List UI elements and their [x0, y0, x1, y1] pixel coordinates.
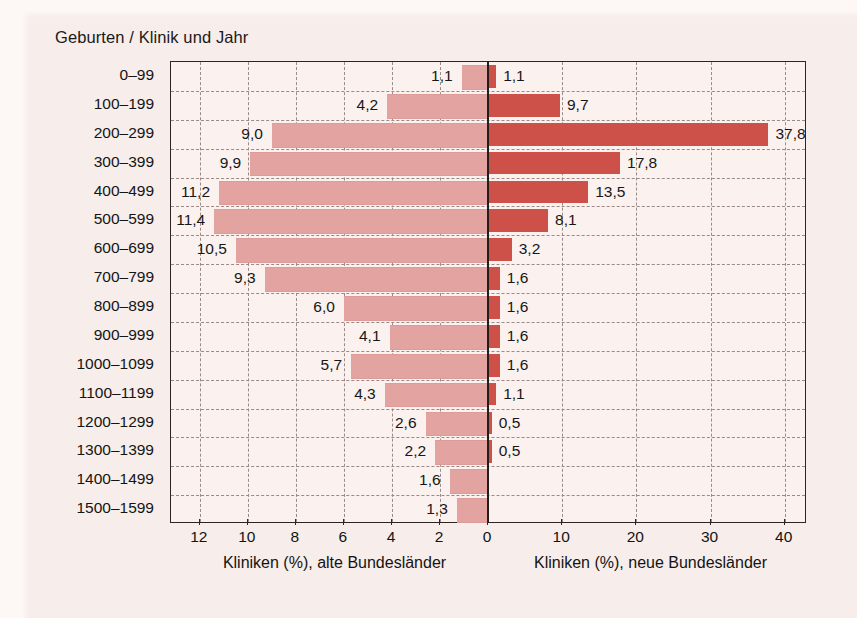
axis-tick-label: 6 — [339, 528, 348, 546]
bar-value-label-right: 8,1 — [555, 209, 577, 232]
bar-right — [488, 238, 512, 261]
bar-left — [385, 383, 488, 408]
bar-left — [219, 181, 488, 206]
bar-value-label-left: 5,7 — [321, 354, 343, 377]
bar-value-label-left: 4,2 — [357, 94, 379, 117]
bar-left — [450, 469, 488, 494]
axis-tickmark — [439, 519, 440, 525]
bar-right — [488, 65, 496, 88]
category-label: 900–999 — [94, 321, 162, 350]
bar-value-label-left: 9,0 — [241, 123, 263, 146]
axis-tickmark — [199, 519, 200, 525]
axis-tickmark — [710, 519, 711, 525]
zero-axis-line — [487, 61, 489, 523]
axis-tickmark — [487, 519, 488, 525]
bar-value-label-right: 1,6 — [507, 325, 529, 348]
bar-value-label-left: 9,3 — [234, 267, 256, 290]
right-axis-label: Kliniken (%), neue Bundesländer — [534, 554, 767, 572]
bar-left — [435, 440, 488, 465]
category-label: 200–299 — [94, 119, 162, 148]
category-label: 1100–1199 — [79, 379, 162, 408]
bar-value-label-right: 1,6 — [507, 354, 529, 377]
bar-value-label-left: 1,6 — [419, 469, 441, 492]
bar-left — [272, 123, 488, 148]
bar-value-label-right: 0,5 — [499, 412, 521, 435]
bar-value-label-left: 4,3 — [354, 383, 376, 406]
category-label: 700–799 — [94, 263, 162, 292]
category-label: 0–99 — [120, 61, 162, 90]
axis-tick-label: 0 — [483, 528, 492, 546]
value-axis-ticks: 12108642010203040 — [170, 524, 806, 548]
bar-left — [387, 94, 488, 119]
axis-tickmark — [561, 519, 562, 525]
category-label: 1000–1099 — [76, 350, 162, 379]
axis-tickmark — [391, 519, 392, 525]
category-label: 800–899 — [94, 292, 162, 321]
category-label: 300–399 — [94, 148, 162, 177]
category-label: 1300–1399 — [76, 436, 162, 465]
category-label: 400–499 — [94, 177, 162, 206]
axis-tick-label: 8 — [291, 528, 300, 546]
category-label: 100–199 — [94, 90, 162, 119]
axis-tickmark — [247, 519, 248, 525]
bar-right — [488, 209, 548, 232]
bar-value-label-right: 13,5 — [595, 181, 625, 204]
bar-left — [390, 325, 488, 350]
axis-tick-label: 30 — [701, 528, 718, 546]
bar-value-label-left: 11,4 — [176, 209, 205, 232]
bar-value-label-left: 4,1 — [359, 325, 381, 348]
bar-value-label-right: 3,2 — [519, 238, 541, 261]
category-label: 1400–1499 — [76, 465, 162, 494]
axis-tick-label: 40 — [775, 528, 792, 546]
bar-right — [488, 296, 500, 319]
bar-right — [488, 383, 496, 406]
bar-value-label-left: 1,3 — [426, 498, 448, 521]
axis-tick-label: 10 — [553, 528, 570, 546]
bar-left — [457, 498, 488, 523]
page-title: Geburten / Klinik und Jahr — [55, 28, 248, 47]
category-axis: 0–99100–199200–299300–399400–499500–5996… — [0, 61, 162, 523]
bar-left — [214, 209, 488, 234]
bar-right — [488, 267, 500, 290]
bar-value-label-left: 11,2 — [181, 181, 210, 204]
axis-tick-label: 4 — [387, 528, 396, 546]
bar-right — [488, 354, 500, 377]
bar-value-label-right: 0,5 — [499, 440, 521, 463]
axis-tickmark — [343, 519, 344, 525]
bar-right — [488, 325, 500, 348]
bar-left — [344, 296, 488, 321]
plot-area: 1,11,14,29,79,037,89,917,811,213,511,48,… — [170, 61, 806, 523]
bar-left — [250, 152, 488, 177]
bar-value-label-right: 17,8 — [627, 152, 657, 175]
category-label: 500–599 — [94, 205, 162, 234]
axis-tick-label: 2 — [435, 528, 444, 546]
left-axis-label: Kliniken (%), alte Bundesländer — [223, 554, 446, 572]
category-label: 1500–1599 — [76, 494, 162, 523]
bar-value-label-right: 1,1 — [503, 383, 525, 406]
bar-value-label-left: 2,2 — [405, 440, 427, 463]
bar-value-label-left: 2,6 — [395, 412, 417, 435]
bar-right — [488, 181, 588, 204]
bar-left — [462, 65, 488, 90]
axis-captions: Kliniken (%), alte BundesländerKliniken … — [170, 554, 806, 580]
axis-tick-label: 12 — [190, 528, 207, 546]
axis-tickmark — [635, 519, 636, 525]
bar-value-label-right: 1,6 — [507, 296, 529, 319]
bar-value-label-left: 10,5 — [197, 238, 227, 261]
bar-left — [351, 354, 488, 379]
axis-tickmark — [295, 519, 296, 525]
axis-tick-label: 20 — [627, 528, 644, 546]
bar-value-label-right: 1,6 — [507, 267, 529, 290]
bar-value-label-left: 9,9 — [220, 152, 242, 175]
category-label: 600–699 — [94, 234, 162, 263]
bar-left — [236, 238, 488, 263]
bar-value-label-left: 6,0 — [313, 296, 335, 319]
bar-value-label-left: 1,1 — [431, 65, 453, 88]
chart-page: Geburten / Klinik und Jahr 0–99100–19920… — [0, 0, 857, 618]
bar-value-label-right: 37,8 — [775, 123, 805, 146]
bar-right — [488, 152, 620, 175]
bar-right — [488, 94, 560, 117]
bar-left — [426, 412, 488, 437]
category-label: 1200–1299 — [76, 408, 162, 437]
bar-value-label-right: 9,7 — [567, 94, 589, 117]
